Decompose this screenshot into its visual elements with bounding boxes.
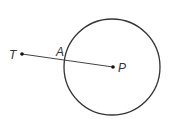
geometry-diagram: T A P — [0, 0, 177, 131]
point-t — [20, 52, 24, 56]
point-p — [111, 65, 115, 69]
segment-tp — [22, 54, 113, 67]
label-p: P — [118, 61, 126, 75]
label-t: T — [9, 48, 18, 62]
label-a: A — [55, 45, 64, 59]
